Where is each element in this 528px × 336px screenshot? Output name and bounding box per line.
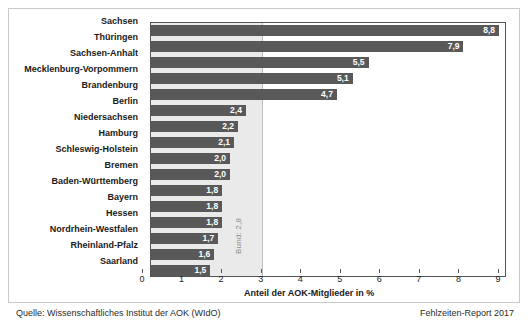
bar-value-label: 1,8 — [151, 185, 218, 196]
category-label: Sachsen-Anhalt — [9, 48, 138, 59]
x-tick-mark — [379, 269, 380, 273]
category-label: Brandenburg — [9, 80, 138, 91]
category-label: Niedersachsen — [9, 112, 138, 123]
x-tick-label: 0 — [132, 274, 152, 285]
bar-value-label: 5,5 — [151, 57, 365, 68]
chart-frame: 8,87,95,55,14,72,42,22,12,02,01,81,81,81… — [8, 8, 520, 303]
x-tick-mark — [300, 269, 301, 273]
chart-footer: Quelle: Wissenschaftliches Institut der … — [8, 303, 520, 328]
bar-value-label: 2,0 — [151, 169, 226, 180]
category-label: Hamburg — [9, 128, 138, 139]
bar-value-label: 1,6 — [151, 249, 210, 260]
x-tick-mark — [142, 269, 143, 273]
x-tick-mark — [498, 269, 499, 273]
bar-value-label: 2,1 — [151, 137, 230, 148]
bar-value-label: 8,8 — [151, 25, 495, 36]
category-label: Rheinland-Pfalz — [9, 240, 138, 251]
x-tick-mark — [182, 269, 183, 273]
bar-row: 2,2 — [151, 121, 505, 132]
plot-area: 8,87,95,55,14,72,42,22,12,02,01,81,81,81… — [150, 22, 506, 277]
category-label: Bayern — [9, 192, 138, 203]
bar-row: 5,5 — [151, 57, 505, 68]
bar-row: 7,9 — [151, 41, 505, 52]
bar-row: 2,0 — [151, 169, 505, 180]
bar-row: 1,6 — [151, 249, 505, 260]
x-tick-label: 2 — [211, 274, 231, 285]
x-tick-mark — [340, 269, 341, 273]
x-tick-label: 4 — [290, 274, 310, 285]
bar-value-label: 1,8 — [151, 201, 218, 212]
bar-value-label: 1,7 — [151, 233, 214, 244]
bar-value-label: 1,8 — [151, 217, 218, 228]
category-label: Mecklenburg-Vorpommern — [9, 64, 138, 75]
bar-row: 2,0 — [151, 153, 505, 164]
bar-row: 1,8 — [151, 201, 505, 212]
x-tick-label: 5 — [330, 274, 350, 285]
bar-row: 1,7 — [151, 233, 505, 244]
bar-row: 1,8 — [151, 185, 505, 196]
category-label: Saarland — [9, 256, 138, 267]
figure-container: 8,87,95,55,14,72,42,22,12,02,01,81,81,81… — [0, 0, 528, 336]
report-note: Fehlzeiten-Report 2017 — [420, 308, 514, 318]
x-axis-title: Anteil der AOK-Mitglieder in % — [244, 288, 374, 298]
national-average-label: Bund: 2,8 — [234, 218, 243, 254]
x-tick-label: 8 — [448, 274, 468, 285]
category-label: Bremen — [9, 160, 138, 171]
x-tick-mark — [419, 269, 420, 273]
category-label: Nordrhein-Westfalen — [9, 224, 138, 235]
category-label: Thüringen — [9, 32, 138, 43]
bar-row: 4,7 — [151, 89, 505, 100]
source-note: Quelle: Wissenschaftliches Institut der … — [16, 308, 221, 318]
x-tick-label: 7 — [409, 274, 429, 285]
bar-value-label: 2,2 — [151, 121, 234, 132]
bar-row: 2,4 — [151, 105, 505, 116]
x-tick-label: 6 — [369, 274, 389, 285]
category-label: Hessen — [9, 208, 138, 219]
bar-row: 2,1 — [151, 137, 505, 148]
bar-value-label: 4,7 — [151, 89, 333, 100]
category-label: Sachsen — [9, 16, 138, 27]
bar-row: 8,8 — [151, 25, 505, 36]
x-tick-mark — [261, 269, 262, 273]
x-tick-label: 3 — [251, 274, 271, 285]
bar-row: 5,1 — [151, 73, 505, 84]
bar-value-label: 2,0 — [151, 153, 226, 164]
bar-value-label: 5,1 — [151, 73, 349, 84]
category-label: Schleswig-Holstein — [9, 144, 138, 155]
x-tick-mark — [221, 269, 222, 273]
bar-value-label: 7,9 — [151, 41, 459, 52]
bar-value-label: 2,4 — [151, 105, 242, 116]
category-label: Baden-Württemberg — [9, 176, 138, 187]
category-label: Berlin — [9, 96, 138, 107]
bar-row: 1,8 — [151, 217, 505, 228]
x-tick-label: 1 — [172, 274, 192, 285]
x-tick-mark — [458, 269, 459, 273]
x-tick-label: 9 — [488, 274, 508, 285]
